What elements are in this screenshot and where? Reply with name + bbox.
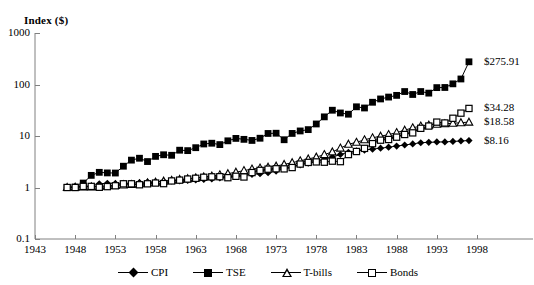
legend-item-bonds[interactable]: Bonds: [357, 266, 418, 278]
x-tick-label: 1973: [253, 243, 299, 255]
legend-item-tbills[interactable]: T-bills: [271, 266, 332, 278]
x-tick-label: 1993: [414, 243, 460, 255]
tse-marker-icon: [193, 268, 223, 277]
legend-item-tse[interactable]: TSE: [193, 266, 246, 278]
chart-container: Index ($) CPI TSE T-bills Bonds 10001001…: [0, 0, 534, 285]
x-tick-label: 1948: [52, 243, 98, 255]
x-tick-label: 1998: [454, 243, 500, 255]
end-label-tse: $275.91: [484, 55, 520, 67]
x-tick-label: 1943: [12, 243, 58, 255]
x-tick-label: 1963: [173, 243, 219, 255]
end-label-t-bills: $18.58: [484, 115, 514, 127]
series-bonds: [64, 105, 472, 190]
end-label-cpi: $8.16: [484, 134, 509, 146]
x-tick-label: 1988: [374, 243, 420, 255]
x-tick-label: 1983: [333, 243, 379, 255]
cpi-marker-icon: [118, 268, 148, 277]
legend-label-tse: TSE: [226, 266, 246, 278]
chart-legend: CPI TSE T-bills Bonds: [118, 263, 418, 281]
series-t-bills: [63, 118, 472, 190]
tbills-marker-icon: [271, 268, 301, 277]
x-tick-label: 1953: [92, 243, 138, 255]
x-tick-label: 1978: [293, 243, 339, 255]
legend-label-bonds: Bonds: [390, 266, 418, 278]
y-tick-label: 100: [0, 78, 30, 90]
bonds-marker-icon: [357, 268, 387, 277]
y-tick-label: 1000: [0, 26, 30, 38]
y-tick-label: 10: [0, 129, 30, 141]
x-tick-label: 1958: [133, 243, 179, 255]
legend-label-cpi: CPI: [151, 266, 168, 278]
y-tick-label: 1: [0, 181, 30, 193]
x-tick-label: 1968: [213, 243, 259, 255]
end-label-bonds: $34.28: [484, 101, 514, 113]
legend-label-tbills: T-bills: [304, 266, 332, 278]
legend-item-cpi[interactable]: CPI: [118, 266, 168, 278]
